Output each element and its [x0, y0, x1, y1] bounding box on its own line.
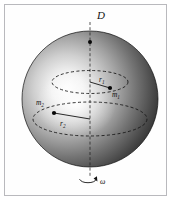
axis-label-D: D: [96, 9, 105, 21]
diagram-canvas: D r1 m1 r2 m2 ω: [0, 0, 172, 201]
omega-label: ω: [100, 177, 106, 186]
omega-arc: [80, 179, 97, 182]
figure-root: D r1 m1 r2 m2 ω: [0, 0, 172, 201]
mass-2-dot: [52, 111, 56, 115]
axis-pole-dot: [88, 40, 92, 44]
